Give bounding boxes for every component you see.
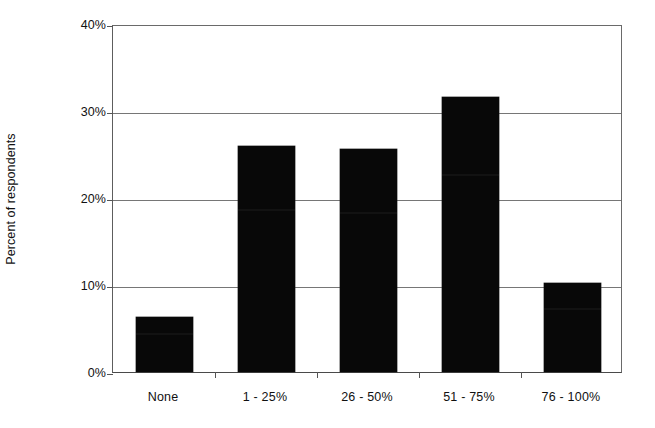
x-axis-tick-label: 1 - 25% [214, 388, 316, 406]
y-axis-tick-mark [107, 200, 113, 201]
y-axis-tick-mark [107, 374, 113, 375]
x-axis-tick-mark [317, 372, 318, 378]
bar-chart-figure: Percent of respondents 0%10%20%30%40% No… [0, 0, 655, 428]
x-axis-tick-label: 26 - 50% [316, 388, 418, 406]
x-axis-tick-label: None [112, 388, 214, 406]
bar [442, 97, 499, 372]
x-axis-tick-mark [215, 372, 216, 378]
y-axis-title: Percent of respondents [0, 25, 22, 373]
bar [238, 146, 295, 372]
gridline [113, 113, 621, 114]
y-axis-tick-mark [107, 287, 113, 288]
y-axis-tick-label: 40% [28, 17, 106, 33]
bar [136, 317, 193, 372]
x-axis-tick-label: 51 - 75% [418, 388, 520, 406]
y-axis-tick-label: 10% [28, 278, 106, 294]
bar [340, 149, 397, 372]
plot-area [112, 25, 622, 373]
y-axis-tick-mark [107, 113, 113, 114]
x-axis-tick-label: 76 - 100% [520, 388, 622, 406]
y-axis-tick-mark [107, 26, 113, 27]
y-axis-tick-label: 20% [28, 191, 106, 207]
y-axis-tick-label: 30% [28, 104, 106, 120]
x-axis-tick-mark [419, 372, 420, 378]
bar [544, 283, 601, 372]
x-axis-tick-mark [521, 372, 522, 378]
y-axis-tick-label: 0% [28, 365, 106, 381]
